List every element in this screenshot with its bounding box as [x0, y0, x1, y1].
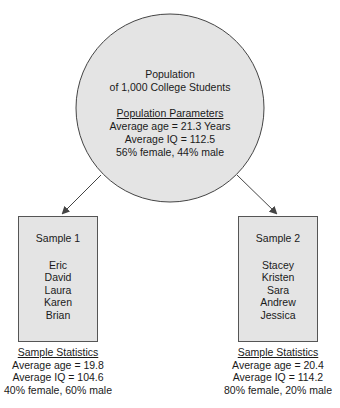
sample-2-member: Andrew	[239, 296, 317, 309]
sample-2-statistics: Sample Statistics Average age = 20.4 Ave…	[213, 346, 340, 396]
population-gender: 56% female, 44% male	[80, 146, 260, 159]
sample-1-statistics: Sample Statistics Average age = 19.8 Ave…	[0, 346, 123, 396]
sample-2-stats-heading: Sample Statistics	[213, 346, 340, 359]
sample-2-member: Jessica	[239, 309, 317, 322]
sample-1-member: Brian	[19, 309, 97, 322]
sample-2-member: Stacey	[239, 259, 317, 272]
population-subtitle: of 1,000 College Students	[80, 81, 260, 94]
sample-2-avg-iq: Average IQ = 114.2	[213, 371, 340, 384]
sample-1-gender: 40% female, 60% male	[0, 384, 123, 397]
sample-1-title: Sample 1	[19, 232, 97, 245]
population-label: Population of 1,000 College Students Pop…	[80, 68, 260, 159]
sample-1-member: David	[19, 271, 97, 284]
sample-1-avg-iq: Average IQ = 104.6	[0, 371, 123, 384]
population-avg-age: Average age = 21.3 Years	[80, 120, 260, 133]
sample-2-title: Sample 2	[239, 232, 317, 245]
sample-1-box: Sample 1 Eric David Laura Karen Brian	[18, 216, 98, 342]
sample-2-member: Sara	[239, 284, 317, 297]
population-title: Population	[80, 68, 260, 81]
sample-1-member: Laura	[19, 284, 97, 297]
population-parameters-heading: Population Parameters	[80, 107, 260, 120]
population-avg-iq: Average IQ = 112.5	[80, 133, 260, 146]
sample-2-box: Sample 2 Stacey Kristen Sara Andrew Jess…	[238, 216, 318, 342]
arrow-to-sample-1	[63, 175, 101, 213]
arrow-to-sample-2	[237, 175, 276, 213]
sample-2-gender: 80% female, 20% male	[213, 384, 340, 397]
sample-2-member: Kristen	[239, 271, 317, 284]
sample-1-member: Karen	[19, 296, 97, 309]
sample-1-stats-heading: Sample Statistics	[0, 346, 123, 359]
sample-2-avg-age: Average age = 20.4	[213, 359, 340, 372]
sample-1-avg-age: Average age = 19.8	[0, 359, 123, 372]
sample-1-member: Eric	[19, 259, 97, 272]
